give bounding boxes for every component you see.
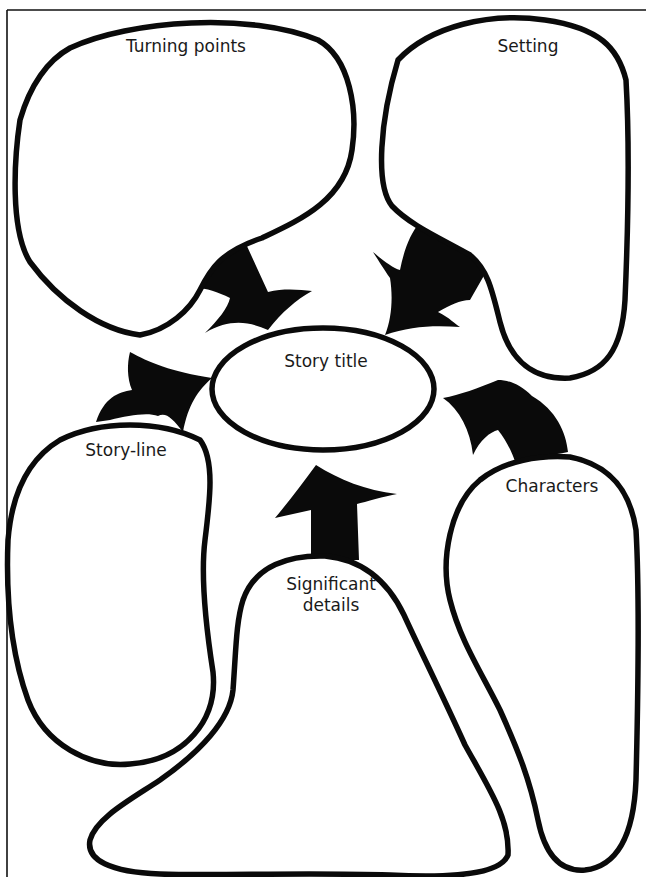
node-turning-points-label: Turning points bbox=[125, 36, 246, 56]
node-setting-label: Setting bbox=[498, 36, 559, 56]
node-significant-details-label-line1: Significant bbox=[286, 574, 376, 594]
node-characters-label: Characters bbox=[506, 476, 599, 496]
story-map-worksheet: Turning points Setting Story title Story… bbox=[0, 0, 646, 877]
node-story-line-label: Story-line bbox=[85, 440, 166, 460]
node-significant-details-label-line2: details bbox=[303, 595, 360, 615]
node-turning-points-shape[interactable] bbox=[15, 23, 354, 335]
node-story-title-label: Story title bbox=[284, 351, 368, 371]
arrow-story-line-to-title bbox=[96, 352, 212, 432]
arrow-characters-to-title bbox=[443, 380, 568, 464]
arrow-significant-details-to-title bbox=[275, 465, 397, 560]
node-story-title-shape[interactable] bbox=[212, 328, 434, 450]
node-story-line-shape[interactable] bbox=[8, 425, 214, 764]
